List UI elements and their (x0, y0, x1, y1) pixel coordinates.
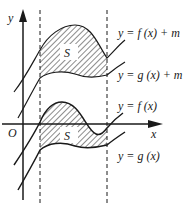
x-axis-label: x (150, 127, 157, 141)
y-axis-label: y (7, 11, 14, 25)
origin-label: O (8, 126, 17, 140)
label-g-plus-m: y = g (x) + m (117, 68, 183, 82)
label-f-plus-m: y = f (x) + m (117, 26, 180, 40)
label-f: y = f (x) (117, 99, 157, 113)
label-g: y = g (x) (117, 149, 160, 163)
region-label-top: S (64, 46, 70, 60)
area-translation-diagram: y x O S S y = f (x) + m y = g (x) + m y … (0, 0, 190, 203)
y-axis-arrow-icon (19, 9, 27, 22)
region-label-bottom: S (64, 129, 70, 143)
